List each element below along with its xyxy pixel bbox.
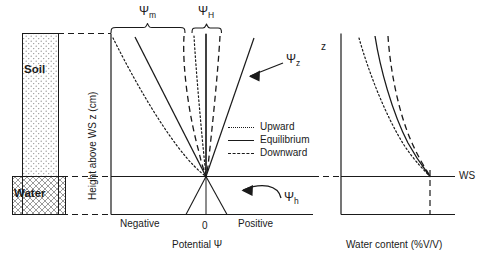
water-content-axis-title: Water content (%V/V) [346,240,442,250]
legend-label-equilibrium: Equilibrium [260,134,309,145]
legend-label-upward: Upward [260,121,294,132]
brace-head-label: ΨH [198,5,214,20]
legend-item-downward: Downward [228,146,309,159]
potential-axis-title: Potential Ψ [172,240,222,250]
psi-subscript-h: h [294,196,299,206]
psi-symbol-z: Ψ [286,52,296,66]
legend-key-dashed-icon [228,148,254,158]
hydrostatic-potential-label: Ψh [284,191,299,206]
brace-matric [111,24,185,34]
height-axis-label: Height above WS z (cm) [88,92,98,200]
gravitational-potential-label: Ψz [286,53,300,68]
potential-zero-label: 0 [202,221,208,231]
matric-curve-upward [113,38,206,177]
line-style-legend: Upward Equilibrium Downward [228,120,309,159]
hydrostatic-line-left [186,177,206,215]
wc-curve-downward [388,36,430,177]
hydrostatic-line-right [206,177,227,215]
legend-item-equilibrium: Equilibrium [228,133,309,146]
water-surface-label: WS [459,171,475,181]
psi-subscript-head: H [208,10,214,20]
wc-curve-upward [359,38,430,177]
potential-positive-label: Positive [238,219,273,229]
middle-panel [111,24,313,215]
psi-z-arrow [249,63,283,82]
legend-item-upward: Upward [228,120,309,133]
potential-negative-label: Negative [120,219,159,229]
psi-symbol-head: Ψ [198,4,208,18]
brace-head [192,24,222,33]
psi-h-arrow [242,185,282,198]
psi-subscript-z: z [296,58,300,68]
legend-key-dotted-icon [228,122,254,132]
right-panel [341,34,455,215]
psi-subscript-matric: m [149,10,156,20]
psi-symbol-matric: Ψ [139,4,149,18]
soil-column [23,34,59,177]
figure-root: Soil Water Height above WS z (cm) Ψm ΨH … [0,0,479,262]
legend-label-downward: Downward [260,147,307,158]
brace-matric-label: Ψm [139,5,156,20]
psi-symbol-h: Ψ [284,190,294,204]
legend-key-solid-icon [228,135,254,145]
water-label: Water [14,188,46,200]
right-panel-z-label: z [321,42,326,52]
soil-label: Soil [24,64,45,76]
